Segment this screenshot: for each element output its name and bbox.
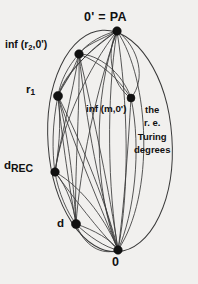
edge-top-zero xyxy=(110,31,118,250)
edge-infm-zero xyxy=(118,98,131,250)
node-label-d: d xyxy=(57,217,64,229)
edge-top-r1 xyxy=(58,31,117,96)
region-annotation: the r. e. Turing degrees xyxy=(134,103,170,157)
node-label-r1: r1 xyxy=(26,83,35,98)
edge-group xyxy=(53,31,144,252)
node-inf-r2-0prime[interactable] xyxy=(75,50,84,59)
region-line-4: degrees xyxy=(134,143,170,156)
node-d-rec[interactable] xyxy=(51,168,60,177)
node-label-0prime-pa: 0' = PA xyxy=(84,11,127,24)
node-top-0prime-pa[interactable] xyxy=(113,27,122,36)
node-label-inf-m-0prime: inf (m,0') xyxy=(86,104,126,114)
inf-r2-head: inf (r xyxy=(5,38,28,50)
degrees-diagram-figure: 0' = PA inf (r2,0') r1 inf (m,0') dREC d… xyxy=(0,0,198,284)
node-label-d-rec: dREC xyxy=(4,162,33,174)
edge-infr2-zero xyxy=(79,54,118,250)
node-r1[interactable] xyxy=(53,91,62,100)
region-line-1: the xyxy=(134,103,170,116)
node-label-inf-r2-0prime: inf (r2,0') xyxy=(5,39,47,52)
edge-drec-zero xyxy=(55,172,118,250)
edge-drec-zero-b xyxy=(55,172,118,250)
region-line-3: Turing xyxy=(134,130,170,143)
node-zero[interactable] xyxy=(114,246,123,255)
edge-top-r1-b xyxy=(58,31,117,96)
node-inf-m-0prime[interactable] xyxy=(127,94,135,102)
region-line-2: r. e. xyxy=(134,116,170,129)
node-label-zero: 0 xyxy=(112,256,119,269)
d-rec-subscript: REC xyxy=(11,162,33,174)
inf-r2-tail: ,0') xyxy=(33,38,48,50)
r1-subscript: 1 xyxy=(30,88,35,97)
edge-infr2-zero-b xyxy=(79,54,118,250)
d-rec-head: d xyxy=(4,159,11,171)
node-d[interactable] xyxy=(71,219,80,228)
